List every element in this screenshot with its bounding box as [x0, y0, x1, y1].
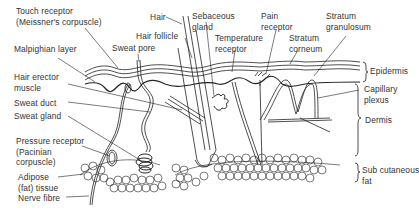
dermis-brace	[355, 84, 361, 156]
label-pressure-receptor: Pressure receptor (Pacinian corpuscle)	[16, 136, 84, 168]
label-stratum-corneum: Stratum corneum	[289, 33, 322, 54]
label-temperature-receptor: Temperature receptor	[215, 33, 263, 54]
epidermis-brace	[363, 62, 368, 82]
label-dermis: Dermis	[365, 115, 392, 126]
sebaceous-gland	[212, 94, 228, 110]
label-nerve-fibre: Nerve fibre	[18, 193, 60, 204]
label-sweat-pore: Sweat pore	[112, 43, 155, 54]
sweat-gland-coil	[136, 154, 153, 173]
label-adipose-tissue: Adipose (fat) tissue	[18, 172, 58, 193]
pacinian-corpuscle	[107, 150, 117, 166]
subcutaneous-brace	[355, 163, 360, 182]
label-hair-follicle: Hair follicle	[136, 31, 178, 42]
label-malpighian-layer: Malpighian layer	[14, 44, 77, 55]
label-epidermis: Epidermis	[370, 66, 408, 77]
nerve-fibre	[90, 84, 128, 205]
adipose-tissue	[80, 154, 340, 192]
label-capillary-plexus: Capillary plexus	[364, 84, 397, 105]
label-sweat-duct: Sweat duct	[14, 98, 56, 109]
label-hair-erector-muscle: Hair erector muscle	[14, 72, 59, 93]
label-stratum-granulosum: Stratum granulosum	[326, 11, 371, 32]
label-sweat-gland: Sweat gland	[14, 111, 61, 122]
label-pain-receptor: Pain receptor	[261, 11, 293, 32]
label-subcutaneous-fat: Sub cutaneous fat	[362, 165, 419, 186]
label-sebaceous-gland: Sebaceous gland	[192, 11, 235, 32]
label-hair: Hair	[150, 12, 166, 23]
hair-erector-muscle	[170, 96, 205, 118]
label-touch-receptor: Touch receptor (Meissner's corpuscle)	[16, 6, 102, 27]
